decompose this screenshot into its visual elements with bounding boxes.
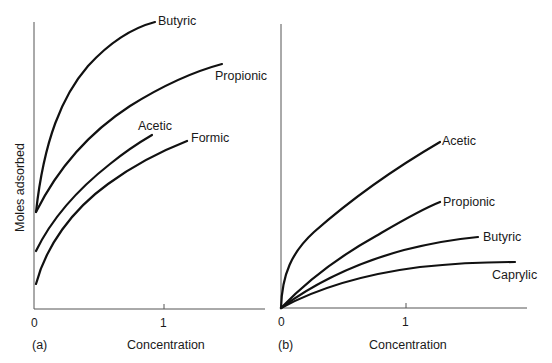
panel-a-tick-1-label: 1 — [160, 316, 167, 330]
panel-b-label-butyric: Butyric — [483, 230, 521, 244]
panel-b-label-acetic: Acetic — [442, 134, 476, 148]
panel-b-curve-acetic — [281, 142, 440, 308]
panel-a-label-butyric: Butyric — [158, 14, 196, 28]
panel-a: 0 1 Moles adsorbed Concentration (a) But… — [13, 14, 267, 352]
panel-a-x-axis-label: Concentration — [127, 338, 205, 352]
panel-a-curve-butyric — [36, 22, 155, 212]
panel-a-label-acetic: Acetic — [138, 119, 172, 133]
panel-a-y-axis-label: Moles adsorbed — [13, 143, 27, 232]
panel-a-tag: (a) — [32, 338, 47, 352]
panel-a-label-formic: Formic — [191, 131, 229, 145]
panel-b-curve-butyric — [281, 237, 478, 308]
panel-b-tick-0-label: 0 — [278, 315, 285, 329]
panel-a-label-propionic: Propionic — [215, 69, 267, 83]
panel-b-tick-1-label: 1 — [402, 315, 409, 329]
panel-b-label-caprylic: Caprylic — [492, 268, 537, 282]
panel-a-curve-acetic — [36, 135, 152, 251]
panel-b-tag: (b) — [278, 338, 293, 352]
panel-b: 0 1 Concentration (b) Acetic Propionic B… — [278, 24, 537, 352]
panel-b-label-propionic: Propionic — [443, 195, 495, 209]
panel-a-tick-0-label: 0 — [31, 316, 38, 330]
figure: 0 1 Moles adsorbed Concentration (a) But… — [0, 0, 552, 363]
panel-b-x-axis-label: Concentration — [369, 338, 447, 352]
